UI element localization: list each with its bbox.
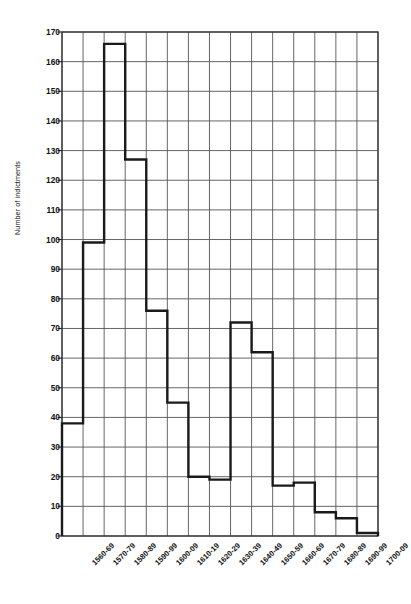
y-tick-label: 160	[34, 57, 60, 67]
horizontal-gridlines	[62, 32, 378, 536]
x-tick-label: 1650-59	[279, 541, 305, 567]
y-tick-label: 10	[34, 501, 60, 511]
x-tick-label: 1600-09	[174, 541, 200, 567]
y-tick-label: 0	[34, 531, 60, 541]
y-tick-label: 130	[34, 146, 60, 156]
y-tick-label: 20	[34, 472, 60, 482]
y-tick-label: 60	[34, 353, 60, 363]
x-tick-label: 1590-99	[153, 541, 179, 567]
y-tick-label: 50	[34, 383, 60, 393]
y-tick-label: 40	[34, 412, 60, 422]
x-tick-label: 1610-19	[195, 541, 221, 567]
axis-frame	[62, 32, 378, 536]
y-axis-tick-labels: 0102030405060708090100110120130140150160…	[30, 0, 60, 604]
y-tick-label: 150	[34, 86, 60, 96]
y-tick-label: 90	[34, 264, 60, 274]
x-tick-label: 1660-69	[300, 541, 326, 567]
y-axis-title: Number of indictments	[13, 95, 22, 235]
y-tick-label: 140	[34, 116, 60, 126]
x-tick-label: 1700-09	[385, 541, 411, 567]
x-tick-label: 1620-29	[216, 541, 242, 567]
y-tick-label: 110	[34, 205, 60, 215]
vertical-gridlines	[62, 32, 378, 536]
x-tick-label: 1630-39	[237, 541, 263, 567]
x-tick-label: 1670-79	[321, 541, 347, 567]
y-tick-label: 70	[34, 323, 60, 333]
x-tick-label: 1640-49	[258, 541, 284, 567]
y-tick-label: 30	[34, 442, 60, 452]
y-tick-label: 120	[34, 175, 60, 185]
y-tick-label: 170	[34, 27, 60, 37]
x-axis-tick-labels: 1560-691570-791580-891590-991600-091610-…	[0, 541, 399, 604]
y-tick-label: 80	[34, 294, 60, 304]
histogram-step-outline	[62, 44, 378, 536]
y-tick-label: 100	[34, 235, 60, 245]
x-tick-label: 1560-69	[90, 541, 116, 567]
